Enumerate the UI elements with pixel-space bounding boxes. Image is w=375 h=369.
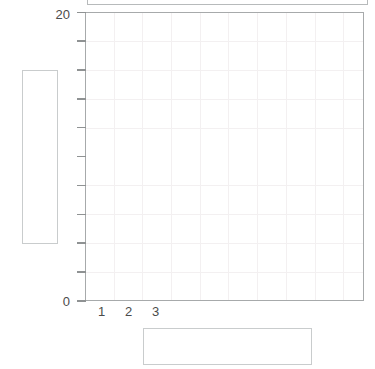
- title-placeholder-box[interactable]: [87, 0, 368, 5]
- y-axis-tick: [77, 69, 86, 70]
- y-axis-label-placeholder-box[interactable]: [22, 70, 58, 244]
- y-axis-tick: [77, 185, 86, 186]
- y-axis-tick: [77, 214, 86, 215]
- y-axis-tick: [77, 40, 86, 41]
- y-axis-tick: [77, 271, 86, 272]
- y-axis-tick: [77, 12, 86, 13]
- x-axis-tick-label-2: 2: [118, 305, 140, 318]
- y-axis-max-label: 20: [10, 8, 70, 21]
- plot-area: [85, 12, 364, 301]
- y-axis-ticks: [77, 12, 86, 302]
- y-axis-min-label: 0: [10, 295, 70, 308]
- x-axis-tick-label-3: 3: [145, 305, 167, 318]
- y-axis-tick: [77, 300, 86, 301]
- y-axis-tick: [77, 98, 86, 99]
- y-axis-tick: [77, 242, 86, 243]
- x-axis-tick-label-1: 1: [91, 305, 113, 318]
- y-axis-tick: [77, 156, 86, 157]
- x-axis-label-placeholder-box[interactable]: [143, 328, 312, 365]
- y-axis-tick: [77, 127, 86, 128]
